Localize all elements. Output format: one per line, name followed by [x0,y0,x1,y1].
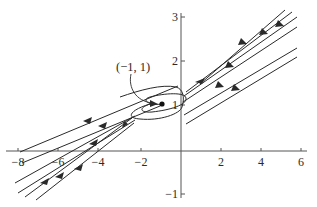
arrow-icon [238,38,247,45]
trajectories [15,10,297,200]
arrow-icon [55,172,64,179]
trajectory-right-6 [186,57,297,124]
arrow-icon [89,139,98,146]
x-tick-label-neg2: −2 [135,155,148,169]
critical-point-label: (−1, 1) [116,60,150,74]
arrow-icon [40,178,49,185]
phase-portrait-canvas: −8 −6 −4 −2 2 4 6 3 2 1 −1 [0,0,317,207]
x-tick-label-4: 4 [258,155,264,169]
y-tick-label-1: 1 [172,98,178,112]
x-tick-label-6: 6 [298,155,304,169]
x-tick-labels: −8 −6 −4 −2 2 4 6 [12,155,304,169]
y-tick-labels: 3 2 1 −1 [165,10,178,201]
y-tick-label-2: 2 [172,54,178,68]
x-tick-label-neg4: −4 [92,155,105,169]
arrow-icon [231,84,240,91]
trajectory-upper-right-3 [184,17,297,96]
arrow-icon [215,81,224,88]
y-tick-label-3: 3 [172,10,178,24]
y-tick-label-neg1: −1 [165,187,178,201]
trajectory-lower-left-2 [18,120,135,193]
x-tick-label-2: 2 [218,155,224,169]
arrow-icon [150,100,158,107]
trajectory-upper-right-1 [200,10,285,84]
trajectory-right-4 [183,27,297,102]
x-tick-label-neg8: −8 [12,155,25,169]
arrow-icon [74,164,83,171]
phase-portrait-figure: −8 −6 −4 −2 2 4 6 3 2 1 −1 [0,0,317,207]
arrow-icon [195,78,205,84]
trajectory-lower-left-1 [15,116,135,183]
y-ticks [181,17,185,194]
trajectory-lower-left-3 [25,118,132,197]
critical-point-marker [159,101,164,106]
